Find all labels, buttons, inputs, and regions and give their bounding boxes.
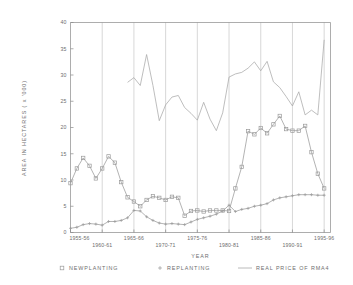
y-tick-label: 20	[60, 124, 66, 130]
legend-item-label: REPLANTING	[167, 265, 210, 271]
rubber-planting-chart: 0510152025303540 1955-561960-611965-6619…	[0, 0, 353, 285]
y-tick-label: 25	[60, 98, 66, 104]
x-tick-label: 1960-61	[92, 242, 112, 248]
chart-legend: NEWPLANTINGREPLANTINGREAL PRICE OF RMA4	[60, 265, 329, 271]
x-tick-label: 1990-91	[282, 242, 302, 248]
x-tick-label: 1985-86	[251, 235, 271, 241]
y-tick-label: 5	[63, 203, 66, 209]
x-tick-label: 1965-66	[124, 235, 144, 241]
plot-frame	[71, 23, 331, 233]
legend-item-label: NEWPLANTING	[69, 265, 118, 271]
real-price-line	[128, 40, 325, 131]
x-axis-title: YEAR	[191, 253, 209, 259]
y-tick-label: 0	[63, 229, 66, 235]
y-tick-label: 35	[60, 46, 66, 52]
y-tick-label: 40	[60, 19, 66, 25]
y-axis-ticks: 0510152025303540	[60, 19, 73, 235]
x-tick-label: 1975-76	[187, 235, 207, 241]
x-tick-label: 1970-71	[156, 242, 176, 248]
legend-item-label: REAL PRICE OF RMA4	[256, 265, 330, 271]
chart-page: 0510152025303540 1955-561960-611965-6619…	[0, 0, 353, 285]
series-real-price	[128, 40, 325, 131]
y-tick-label: 30	[60, 72, 66, 78]
x-tick-label: 1995-96	[314, 235, 334, 241]
y-tick-label: 15	[60, 151, 66, 157]
x-tick-label: 1980-81	[219, 242, 239, 248]
y-axis-title: AREA IN HECTARES ( x '000)	[21, 80, 27, 176]
y-tick-label: 10	[60, 177, 66, 183]
x-tick-label: 1955-56	[70, 235, 90, 241]
legend-square-icon	[60, 266, 64, 270]
